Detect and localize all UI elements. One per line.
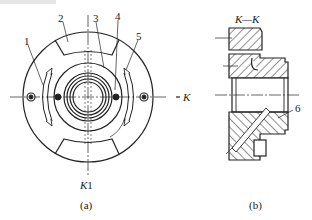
callout-6: 6: [295, 103, 301, 114]
caption-b: (b): [249, 200, 262, 211]
diagram-canvas: [0, 0, 312, 220]
callout-1: 1: [24, 36, 30, 47]
caption-a: (a): [80, 200, 92, 211]
section-mark-bottom-k1: K1: [80, 180, 93, 191]
callout-4: 4: [115, 11, 121, 22]
figure-a-front-view: [10, 15, 180, 176]
section-mark-right-k: K: [183, 92, 190, 103]
section-title-k-k: K—K: [235, 14, 259, 25]
callout-3: 3: [93, 13, 99, 24]
section-mark-bottom-suffix: 1: [87, 179, 93, 191]
callout-5: 5: [136, 31, 142, 42]
figure-b-section-view: [215, 28, 300, 160]
callout-2: 2: [58, 13, 64, 24]
